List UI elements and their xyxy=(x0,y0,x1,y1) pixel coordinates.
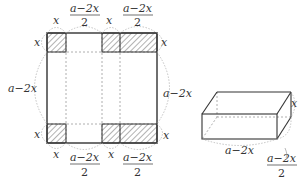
label-right-a2x: a−2x xyxy=(163,87,193,100)
hatched-top-right xyxy=(102,33,157,52)
hatched-bottom-right xyxy=(102,124,157,143)
hatched-bottom-left xyxy=(47,124,66,143)
label-left-a2x: a−2x xyxy=(8,82,38,95)
box-length-label: a−2x xyxy=(225,144,255,157)
label-bottom-frac2-den: 2 xyxy=(134,166,141,179)
hatched-top-left xyxy=(47,33,66,52)
visible-edges xyxy=(202,92,291,139)
box-depth-num: a−2x xyxy=(267,152,297,165)
label-bottom-frac2-num: a−2x xyxy=(123,151,153,164)
label-left-x1: x xyxy=(34,36,41,49)
box-dimension-arcs xyxy=(202,92,295,146)
label-top-frac1-den: 2 xyxy=(81,16,88,29)
label-right-x2: x xyxy=(163,129,170,142)
label-top-frac1-num: a−2x xyxy=(70,2,100,15)
box-figure: x a−2x a−2x 2 xyxy=(202,92,298,180)
label-top-x2: x xyxy=(106,14,113,27)
label-top-frac2-den: 2 xyxy=(134,16,141,29)
label-bottom-x2: x xyxy=(108,148,115,161)
label-bottom-frac1-den: 2 xyxy=(81,166,88,179)
label-top-x1: x xyxy=(53,14,60,27)
box-height-label: x xyxy=(291,97,298,110)
label-bottom-x1: x xyxy=(53,148,60,161)
label-left-x2: x xyxy=(34,128,41,141)
net-figure: x a−2x 2 x a−2x 2 x a−2x x x a−2x x x a−… xyxy=(8,2,193,179)
diagram-canvas: x a−2x 2 x a−2x 2 x a−2x x x a−2x x x a−… xyxy=(0,0,298,184)
label-right-x1: x xyxy=(161,36,168,49)
label-bottom-frac1-num: a−2x xyxy=(70,151,100,164)
label-top-frac2-num: a−2x xyxy=(123,2,153,15)
hidden-edges xyxy=(202,92,291,139)
box-depth-den: 2 xyxy=(278,167,285,180)
